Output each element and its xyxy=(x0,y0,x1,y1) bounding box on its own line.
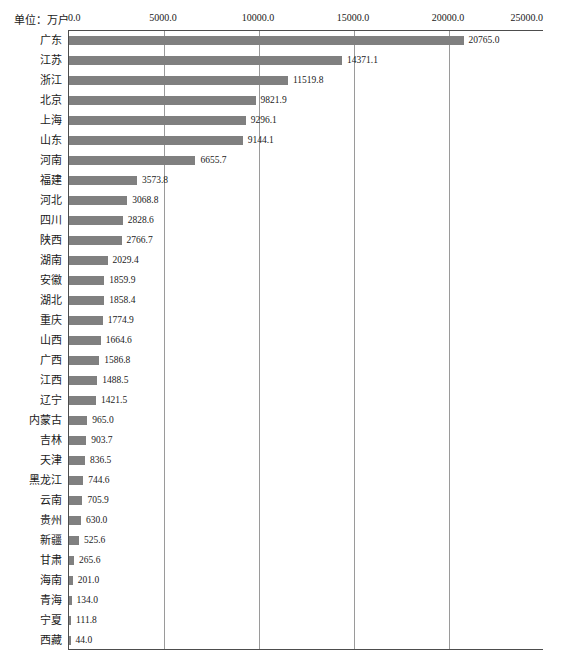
bar xyxy=(69,336,101,345)
bar xyxy=(69,356,99,365)
bar-value-label: 630.0 xyxy=(86,515,107,526)
bar-row: 湖南2029.4 xyxy=(0,250,563,270)
bar-row: 青海134.0 xyxy=(0,590,563,610)
bar-value-label: 1664.6 xyxy=(106,335,132,346)
bar-rows: 广东20765.0江苏14371.1浙江11519.8北京9821.9上海929… xyxy=(0,30,563,650)
bar-row: 吉林903.7 xyxy=(0,430,563,450)
bar-value-label: 9296.1 xyxy=(251,115,277,126)
bar-value-label: 201.0 xyxy=(78,575,99,586)
bar-row: 贵州630.0 xyxy=(0,510,563,530)
bar-row: 海南201.0 xyxy=(0,570,563,590)
bar-value-label: 6655.7 xyxy=(200,155,226,166)
x-tick-label: 10000.0 xyxy=(242,12,275,24)
category-label: 安徽 xyxy=(0,274,62,287)
category-label: 辽宁 xyxy=(0,394,62,407)
bar xyxy=(69,156,195,165)
bar xyxy=(69,136,243,145)
bar xyxy=(69,576,73,585)
category-label: 江苏 xyxy=(0,54,62,67)
category-label: 新疆 xyxy=(0,534,62,547)
bar-value-label: 525.6 xyxy=(84,535,105,546)
category-label: 内蒙古 xyxy=(0,414,62,427)
x-tick-label: 25000.0 xyxy=(511,12,544,24)
bar-row: 黑龙江744.6 xyxy=(0,470,563,490)
bar-row: 山东9144.1 xyxy=(0,130,563,150)
bar-row: 天津836.5 xyxy=(0,450,563,470)
bar-row: 西藏44.0 xyxy=(0,630,563,650)
category-label: 贵州 xyxy=(0,514,62,527)
bar-value-label: 20765.0 xyxy=(469,35,500,46)
bar-value-label: 744.6 xyxy=(88,475,109,486)
bar xyxy=(69,116,246,125)
bar-value-label: 265.6 xyxy=(79,555,100,566)
category-label: 湖南 xyxy=(0,254,62,267)
bar-value-label: 3068.8 xyxy=(132,195,158,206)
bar-value-label: 1586.8 xyxy=(104,355,130,366)
bar-row: 陕西2766.7 xyxy=(0,230,563,250)
category-label: 河南 xyxy=(0,154,62,167)
bar-row: 新疆525.6 xyxy=(0,530,563,550)
bar xyxy=(69,456,85,465)
bar-row: 云南705.9 xyxy=(0,490,563,510)
bar-value-label: 1774.9 xyxy=(108,315,134,326)
bar-value-label: 836.5 xyxy=(90,455,111,466)
bar-value-label: 705.9 xyxy=(87,495,108,506)
x-tick-label: 0.0 xyxy=(68,12,81,24)
bar xyxy=(69,476,83,485)
bar xyxy=(69,96,256,105)
bar-row: 江西1488.5 xyxy=(0,370,563,390)
bar-value-label: 965.0 xyxy=(92,415,113,426)
category-label: 河北 xyxy=(0,194,62,207)
bar-row: 内蒙古965.0 xyxy=(0,410,563,430)
bar xyxy=(69,596,72,605)
bar-value-label: 14371.1 xyxy=(347,55,378,66)
category-label: 西藏 xyxy=(0,634,62,647)
category-label: 福建 xyxy=(0,174,62,187)
bar-value-label: 111.8 xyxy=(76,615,97,626)
bar xyxy=(69,376,97,385)
bar-row: 广东20765.0 xyxy=(0,30,563,50)
category-label: 重庆 xyxy=(0,314,62,327)
category-label: 宁夏 xyxy=(0,614,62,627)
bar xyxy=(69,236,122,245)
category-label: 云南 xyxy=(0,494,62,507)
category-label: 天津 xyxy=(0,454,62,467)
bar xyxy=(69,56,342,65)
bar-value-label: 11519.8 xyxy=(293,75,324,86)
bar xyxy=(69,256,108,265)
bar-row: 湖北1858.4 xyxy=(0,290,563,310)
x-tick-label: 20000.0 xyxy=(432,12,465,24)
bar-chart: 单位：万户 0.05000.010000.015000.020000.02500… xyxy=(0,0,563,667)
bar xyxy=(69,36,464,45)
bar xyxy=(69,516,81,525)
bar-row: 山西1664.6 xyxy=(0,330,563,350)
bar-value-label: 1421.5 xyxy=(101,395,127,406)
bar-row: 上海9296.1 xyxy=(0,110,563,130)
category-label: 陕西 xyxy=(0,234,62,247)
bar-row: 河北3068.8 xyxy=(0,190,563,210)
bar-value-label: 1859.9 xyxy=(109,275,135,286)
bar-row: 安徽1859.9 xyxy=(0,270,563,290)
x-tick-label: 5000.0 xyxy=(149,12,177,24)
category-label: 吉林 xyxy=(0,434,62,447)
bar-row: 重庆1774.9 xyxy=(0,310,563,330)
bar xyxy=(69,616,71,625)
x-tick-label: 15000.0 xyxy=(337,12,370,24)
bar xyxy=(69,176,137,185)
category-label: 上海 xyxy=(0,114,62,127)
bar-value-label: 9821.9 xyxy=(261,95,287,106)
bar xyxy=(69,316,103,325)
bar xyxy=(69,76,288,85)
bar-value-label: 903.7 xyxy=(91,435,112,446)
bar xyxy=(69,636,71,645)
bar-value-label: 2029.4 xyxy=(113,255,139,266)
x-axis-tick-labels: 0.05000.010000.015000.020000.025000.0 xyxy=(0,12,563,28)
bar xyxy=(69,396,96,405)
bar-row: 甘肃265.6 xyxy=(0,550,563,570)
bar xyxy=(69,556,74,565)
bar xyxy=(69,416,87,425)
bar-row: 浙江11519.8 xyxy=(0,70,563,90)
bar-row: 江苏14371.1 xyxy=(0,50,563,70)
bar-value-label: 3573.8 xyxy=(142,175,168,186)
category-label: 广西 xyxy=(0,354,62,367)
